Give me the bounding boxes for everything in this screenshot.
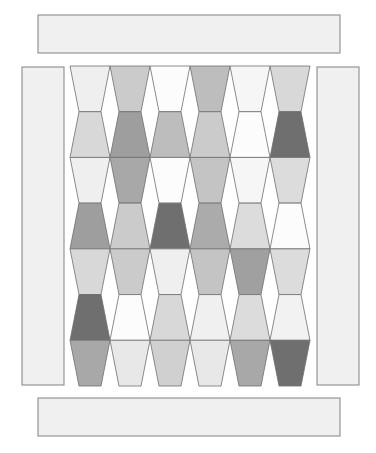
bottom-border-strip (38, 398, 340, 436)
quilt-diagram (0, 0, 376, 453)
right-border-strip (317, 67, 359, 385)
quilt-preview-canvas (0, 0, 376, 453)
top-border-strip (38, 15, 340, 53)
left-border-strip (22, 67, 64, 385)
